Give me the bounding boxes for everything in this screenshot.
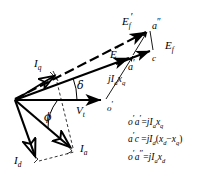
label-iq: Iq — [34, 58, 41, 72]
label-ef: Ef — [165, 40, 174, 54]
label-id: Id — [14, 155, 21, 169]
label-vt: Vt — [76, 105, 85, 119]
phasor-diagram-figure: Ef′ a″ E′ Ef a′ c Iq δ ϕ Vt o′ jIaxq Ia … — [0, 0, 221, 178]
equation-a-prime-c: a′c =jId(xd−xq) — [128, 131, 182, 147]
label-jiaxq: jIaxq — [108, 74, 125, 87]
diagram-canvas — [0, 0, 221, 178]
label-delta: δ — [77, 80, 84, 91]
label-a-prime: a′ — [128, 59, 135, 72]
equation-o-prime-a-double-prime: o′a″=jIaxd — [128, 149, 165, 165]
label-o-prime: o′ — [107, 100, 113, 113]
segment-a-prime-c — [150, 31, 153, 50]
label-e-prime: E′ — [110, 45, 119, 60]
label-ef-prime: Ef′ — [122, 12, 133, 29]
label-a-double-prime: a″ — [152, 18, 161, 31]
label-c: c — [152, 54, 156, 63]
equation-o-prime-a-prime: o′a′=jIaxq — [128, 114, 163, 130]
label-ia: Ia — [80, 143, 87, 157]
label-phi: ϕ — [44, 112, 52, 123]
